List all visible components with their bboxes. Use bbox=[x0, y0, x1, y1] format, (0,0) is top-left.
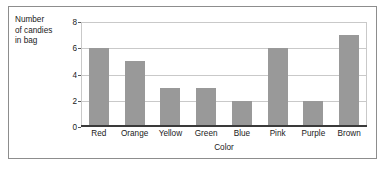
bar-slot bbox=[260, 22, 296, 127]
x-axis-title: Color bbox=[81, 143, 367, 152]
bar-slot bbox=[296, 22, 332, 127]
y-axis-title-line-2: of candies bbox=[15, 26, 77, 37]
bar-slot bbox=[188, 22, 224, 127]
y-axis-title-line-1: Number bbox=[15, 15, 77, 26]
bar-yellow bbox=[160, 88, 180, 127]
y-axis-tick-label: 2 bbox=[72, 96, 77, 105]
chart-figure: Number of candies in bag 02468 RedOrange… bbox=[8, 6, 377, 159]
y-axis-tick-label: 6 bbox=[72, 44, 77, 53]
y-axis-tick-mark bbox=[78, 127, 81, 128]
x-axis-tick-label-pink: Pink bbox=[260, 129, 296, 138]
x-axis-tick-label-orange: Orange bbox=[117, 129, 153, 138]
bar-purple bbox=[303, 101, 323, 127]
y-axis-title-line-3: in bag bbox=[15, 36, 77, 47]
y-axis-tick-label: 8 bbox=[72, 18, 77, 27]
y-axis-title: Number of candies in bag bbox=[15, 15, 77, 47]
x-axis-tick-label-blue: Blue bbox=[224, 129, 260, 138]
bar-brown bbox=[339, 35, 359, 127]
x-axis-tick-label-red: Red bbox=[81, 129, 117, 138]
x-axis-line bbox=[81, 125, 367, 127]
bar-green bbox=[196, 88, 216, 127]
bar-red bbox=[89, 48, 109, 127]
bar-slot bbox=[81, 22, 117, 127]
bar-slot bbox=[224, 22, 260, 127]
bar-pink bbox=[268, 48, 288, 127]
y-axis-tick-label: 4 bbox=[72, 70, 77, 79]
bar-slot bbox=[331, 22, 367, 127]
plot-area: 02468 bbox=[81, 22, 367, 127]
x-axis-tick-label-brown: Brown bbox=[331, 129, 367, 138]
x-axis-tick-label-green: Green bbox=[188, 129, 224, 138]
bar-orange bbox=[125, 61, 145, 127]
x-axis-tick-label-purple: Purple bbox=[296, 129, 332, 138]
y-axis-tick-label: 0 bbox=[72, 123, 77, 132]
x-axis-tick-label-yellow: Yellow bbox=[153, 129, 189, 138]
bar-blue bbox=[232, 101, 252, 127]
x-axis-tick-labels: RedOrangeYellowGreenBluePinkPurpleBrown bbox=[81, 129, 367, 138]
bar-slot bbox=[117, 22, 153, 127]
bar-slot bbox=[153, 22, 189, 127]
bar-series bbox=[81, 22, 367, 127]
